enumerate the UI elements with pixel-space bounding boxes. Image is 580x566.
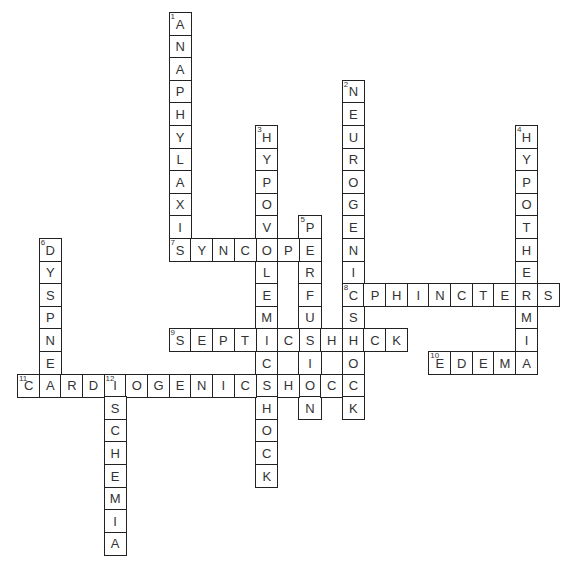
crossword-cell[interactable]: E xyxy=(104,464,127,488)
crossword-cell[interactable]: N xyxy=(212,238,235,262)
crossword-cell[interactable]: P5 xyxy=(298,215,321,239)
crossword-cell[interactable]: L xyxy=(169,148,192,172)
crossword-cell[interactable]: S xyxy=(104,396,127,420)
crossword-cell[interactable]: D xyxy=(450,351,473,375)
crossword-cell[interactable]: P xyxy=(515,170,538,194)
crossword-cell[interactable]: O xyxy=(342,351,365,375)
crossword-cell[interactable]: E xyxy=(298,238,321,262)
crossword-cell[interactable]: Y xyxy=(169,125,192,149)
crossword-cell[interactable]: I xyxy=(515,328,538,352)
crossword-cell[interactable]: O xyxy=(255,419,278,443)
crossword-cell[interactable]: I xyxy=(212,374,235,398)
crossword-cell[interactable]: A xyxy=(515,351,538,375)
crossword-cell[interactable]: G xyxy=(342,193,365,217)
crossword-cell[interactable]: G xyxy=(147,374,170,398)
crossword-cell[interactable]: E xyxy=(39,351,62,375)
crossword-cell[interactable]: I xyxy=(407,283,430,307)
crossword-cell[interactable]: X xyxy=(169,193,192,217)
crossword-cell[interactable]: V xyxy=(255,215,278,239)
crossword-cell[interactable]: H xyxy=(104,441,127,465)
crossword-cell[interactable]: O xyxy=(255,193,278,217)
crossword-cell[interactable]: N xyxy=(190,374,213,398)
crossword-cell[interactable]: P xyxy=(169,80,192,104)
crossword-cell[interactable]: P xyxy=(277,238,300,262)
crossword-cell[interactable]: O xyxy=(342,170,365,194)
crossword-cell[interactable]: S9 xyxy=(169,328,192,352)
crossword-cell[interactable]: M xyxy=(104,487,127,511)
crossword-cell[interactable]: A xyxy=(169,57,192,81)
crossword-cell[interactable]: P xyxy=(255,170,278,194)
crossword-cell[interactable]: R xyxy=(60,374,83,398)
crossword-cell[interactable]: C xyxy=(277,328,300,352)
crossword-cell[interactable]: H xyxy=(255,396,278,420)
crossword-cell[interactable]: M xyxy=(515,306,538,330)
crossword-cell[interactable]: I xyxy=(104,509,127,533)
crossword-cell[interactable]: T xyxy=(515,215,538,239)
crossword-cell[interactable]: C xyxy=(320,374,343,398)
crossword-cell[interactable]: P xyxy=(39,306,62,330)
crossword-cell[interactable]: I12 xyxy=(104,374,127,398)
crossword-cell[interactable]: O xyxy=(515,193,538,217)
crossword-cell[interactable]: E xyxy=(190,328,213,352)
crossword-cell[interactable]: C xyxy=(234,374,257,398)
crossword-cell[interactable]: E xyxy=(472,351,495,375)
crossword-cell[interactable]: K xyxy=(255,464,278,488)
crossword-cell[interactable]: P xyxy=(212,328,235,352)
crossword-cell[interactable]: I xyxy=(298,351,321,375)
crossword-cell[interactable]: I xyxy=(255,328,278,352)
crossword-cell[interactable]: H xyxy=(385,283,408,307)
crossword-cell[interactable]: P xyxy=(363,283,386,307)
crossword-cell[interactable]: C xyxy=(255,351,278,375)
crossword-cell[interactable]: R xyxy=(515,283,538,307)
crossword-cell[interactable]: K xyxy=(342,396,365,420)
crossword-cell[interactable]: A xyxy=(104,532,127,556)
crossword-cell[interactable]: R xyxy=(342,148,365,172)
crossword-cell[interactable]: Y xyxy=(190,238,213,262)
crossword-cell[interactable]: H xyxy=(320,328,343,352)
crossword-cell[interactable]: U xyxy=(298,306,321,330)
crossword-cell[interactable]: E xyxy=(493,283,516,307)
crossword-cell[interactable]: H xyxy=(515,238,538,262)
crossword-cell[interactable]: C xyxy=(234,238,257,262)
crossword-cell[interactable]: N xyxy=(428,283,451,307)
crossword-cell[interactable]: Y xyxy=(39,261,62,285)
crossword-cell[interactable]: A xyxy=(169,170,192,194)
crossword-cell[interactable]: T xyxy=(234,328,257,352)
crossword-cell[interactable]: O xyxy=(125,374,148,398)
crossword-cell[interactable]: R xyxy=(298,261,321,285)
crossword-cell[interactable]: O xyxy=(255,238,278,262)
crossword-cell[interactable]: C xyxy=(450,283,473,307)
crossword-cell[interactable]: E10 xyxy=(428,351,451,375)
crossword-cell[interactable]: C xyxy=(104,419,127,443)
crossword-cell[interactable]: F xyxy=(298,283,321,307)
crossword-cell[interactable]: C xyxy=(363,328,386,352)
crossword-cell[interactable]: I xyxy=(169,215,192,239)
crossword-cell[interactable]: A1 xyxy=(169,12,192,36)
crossword-cell[interactable]: A xyxy=(39,374,62,398)
crossword-cell[interactable]: E xyxy=(255,283,278,307)
crossword-cell[interactable]: D xyxy=(82,374,105,398)
crossword-cell[interactable]: C8 xyxy=(342,283,365,307)
crossword-cell[interactable]: I xyxy=(342,261,365,285)
crossword-cell[interactable]: U xyxy=(342,125,365,149)
crossword-cell[interactable]: C xyxy=(255,441,278,465)
crossword-cell[interactable]: E xyxy=(515,261,538,285)
crossword-cell[interactable]: H xyxy=(169,102,192,126)
crossword-cell[interactable]: S xyxy=(537,283,560,307)
crossword-cell[interactable]: K xyxy=(385,328,408,352)
crossword-cell[interactable]: M xyxy=(255,306,278,330)
crossword-cell[interactable]: Y xyxy=(255,148,278,172)
crossword-cell[interactable]: M xyxy=(493,351,516,375)
crossword-cell[interactable]: H xyxy=(277,374,300,398)
crossword-cell[interactable]: N xyxy=(298,396,321,420)
crossword-cell[interactable]: E xyxy=(169,374,192,398)
crossword-cell[interactable]: T xyxy=(472,283,495,307)
crossword-cell[interactable]: N xyxy=(342,238,365,262)
crossword-cell[interactable]: S7 xyxy=(169,238,192,262)
crossword-cell[interactable]: E xyxy=(342,215,365,239)
crossword-cell[interactable]: E xyxy=(342,102,365,126)
crossword-cell[interactable]: Y xyxy=(515,148,538,172)
crossword-cell[interactable]: S xyxy=(255,374,278,398)
crossword-cell[interactable]: H3 xyxy=(255,125,278,149)
crossword-cell[interactable]: S xyxy=(298,328,321,352)
